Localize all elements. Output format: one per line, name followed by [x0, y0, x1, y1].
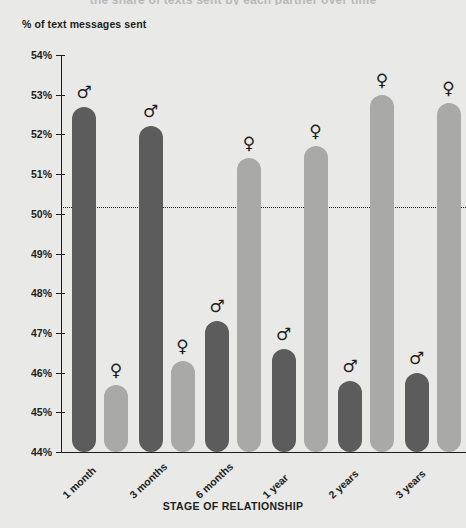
mars-male-symbol-icon: ♂ [205, 298, 229, 315]
bar-3-months-female [171, 361, 195, 452]
speech-bubble-tail-top-icon [423, 375, 434, 388]
y-axis-tick-label: 52% [8, 128, 52, 140]
bar-1-month-female [104, 385, 128, 452]
y-axis-tick-mark [56, 373, 65, 374]
speech-bubble-tail-bottom-icon [200, 439, 211, 452]
venus-female-symbol-icon: ♀ [104, 362, 128, 379]
x-axis-caption: STAGE OF RELATIONSHIP [0, 500, 466, 512]
speech-bubble-tail-top-icon [255, 160, 266, 173]
mars-male-symbol-icon: ♂ [139, 103, 163, 120]
speech-bubble-tail-top-icon [455, 105, 466, 118]
y-axis-tick-mark [56, 333, 65, 334]
speech-bubble-tail-top-icon [189, 363, 200, 376]
bar-3-months-male [139, 126, 163, 452]
x-axis-label-6-months: 6 months [193, 460, 235, 501]
speech-bubble-tail-top-icon [223, 323, 234, 336]
y-axis-tick-mark [56, 254, 65, 255]
mars-male-symbol-icon: ♂ [405, 350, 429, 367]
speech-bubble-tail-bottom-icon [400, 439, 411, 452]
y-axis-tick-label: 48% [8, 287, 52, 299]
y-axis-tick-mark [56, 95, 65, 96]
y-axis-tick-mark [56, 412, 65, 413]
speech-bubble-tail-bottom-icon [99, 439, 110, 452]
venus-female-symbol-icon: ♀ [304, 123, 328, 140]
mars-male-symbol-icon: ♂ [72, 84, 96, 101]
y-axis-tick-label: 44% [8, 446, 52, 458]
speech-bubble-tail-bottom-icon [134, 439, 145, 452]
speech-bubble-tail-bottom-icon [365, 439, 376, 452]
bar-2-years-female [370, 95, 394, 452]
x-axis-label-1-year: 1 year [260, 471, 290, 500]
speech-bubble-tail-top-icon [157, 128, 168, 141]
speech-bubble-tail-top-icon [356, 383, 367, 396]
y-axis-tick-label: 47% [8, 327, 52, 339]
x-axis-label-1-month: 1 month [60, 464, 98, 501]
speech-bubble-tail-top-icon [322, 148, 333, 161]
y-axis-tick-label: 54% [8, 49, 52, 61]
bar-2-years-male [338, 381, 362, 452]
x-axis-label-3-months: 3 months [127, 460, 169, 501]
venus-female-symbol-icon: ♀ [437, 80, 461, 97]
bar-6-months-female [237, 158, 261, 452]
speech-bubble-tail-top-icon [290, 351, 301, 364]
speech-bubble-tail-top-icon [388, 97, 399, 110]
y-axis-tick-label: 45% [8, 406, 52, 418]
speech-bubble-tail-bottom-icon [299, 439, 310, 452]
y-axis-tick-label: 49% [8, 248, 52, 260]
speech-bubble-tail-bottom-icon [333, 439, 344, 452]
bar-1-year-female [304, 146, 328, 452]
venus-female-symbol-icon: ♀ [171, 338, 195, 355]
speech-bubble-tail-bottom-icon [267, 439, 278, 452]
reference-line-50-percent [61, 207, 466, 208]
y-axis-tick-mark [56, 174, 65, 175]
y-axis-tick-label: 53% [8, 89, 52, 101]
y-axis-tick-label: 51% [8, 168, 52, 180]
x-axis-label-2-years: 2 years [326, 467, 361, 500]
y-axis-tick-label: 46% [8, 367, 52, 379]
mars-male-symbol-icon: ♂ [272, 326, 296, 343]
x-axis-label-3-years: 3 years [393, 467, 428, 500]
bar-chart-plot: 44%45%46%47%48%49%50%51%52%53%54% ♂♀♂♀♂♀… [0, 0, 466, 528]
y-axis-tick-mark [56, 293, 65, 294]
y-axis-tick-mark [56, 452, 65, 453]
y-axis-tick-mark [56, 55, 65, 56]
speech-bubble-tail-bottom-icon [67, 439, 78, 452]
speech-bubble-tail-top-icon [90, 109, 101, 122]
speech-bubble-tail-top-icon [122, 387, 133, 400]
venus-female-symbol-icon: ♀ [237, 135, 261, 152]
mars-male-symbol-icon: ♂ [338, 358, 362, 375]
speech-bubble-tail-bottom-icon [432, 439, 443, 452]
bar-6-months-male [205, 321, 229, 452]
x-axis-line [61, 452, 466, 453]
speech-bubble-tail-bottom-icon [166, 439, 177, 452]
bar-3-years-female [437, 103, 461, 452]
y-axis-tick-mark [56, 214, 65, 215]
bar-1-month-male [72, 107, 96, 452]
bar-1-year-male [272, 349, 296, 452]
y-axis-tick-label: 50% [8, 208, 52, 220]
venus-female-symbol-icon: ♀ [370, 72, 394, 89]
y-axis-tick-mark [56, 134, 65, 135]
speech-bubble-tail-bottom-icon [232, 439, 243, 452]
bar-3-years-male [405, 373, 429, 452]
